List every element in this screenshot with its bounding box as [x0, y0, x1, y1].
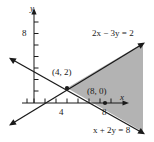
y-tick-label-8: 8	[22, 29, 27, 38]
y-axis-label: y	[30, 4, 34, 13]
point-label-intersection: (4, 2)	[52, 68, 72, 77]
x-tick-label-8: 8	[102, 108, 107, 117]
x-axis-label: x	[120, 93, 124, 102]
x-tick-label-4: 4	[59, 108, 64, 117]
marker-x-intercept-8-0	[103, 101, 107, 105]
y-axis-ticks	[34, 22, 39, 91]
plot-area	[0, 0, 154, 142]
graph-figure: y x 8 4 8 2x − 3y = 2 x + 2y = 8 (4, 2) …	[0, 0, 154, 142]
line-2x-3y-arrow-start-icon	[9, 119, 17, 125]
point-label-x-intercept: (8, 0)	[87, 87, 107, 96]
equation-label-top: 2x − 3y = 2	[92, 29, 134, 38]
marker-intersection-4-2	[65, 86, 69, 90]
equation-label-bottom: x + 2y = 8	[93, 126, 130, 135]
